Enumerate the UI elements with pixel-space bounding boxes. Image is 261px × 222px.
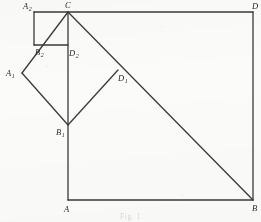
segment-layer — [22, 12, 253, 200]
diamond-side-B1-D1 — [68, 70, 118, 125]
figure-caption: Fig. 1 — [0, 212, 261, 221]
vertex-label-A2: A2 — [23, 2, 32, 11]
vertex-label-C: C — [65, 1, 71, 10]
vertex-label-D2: D2 — [69, 49, 79, 58]
diagonal-C-to-B — [68, 12, 253, 200]
vertex-label-D1: D1 — [118, 74, 128, 83]
figure-canvas: A2 C D B2 D2 A1 D1 B1 A B Fig. 1 — [0, 0, 261, 222]
vertex-label-D: D — [252, 2, 258, 11]
diamond-side-C-A1 — [22, 12, 68, 73]
diamond-side-A1-B1 — [22, 73, 68, 125]
geometry-drawing — [0, 0, 261, 222]
vertex-label-B2: B2 — [35, 48, 44, 57]
vertex-label-B1: B1 — [56, 128, 65, 137]
vertex-label-A1: A1 — [6, 69, 15, 78]
